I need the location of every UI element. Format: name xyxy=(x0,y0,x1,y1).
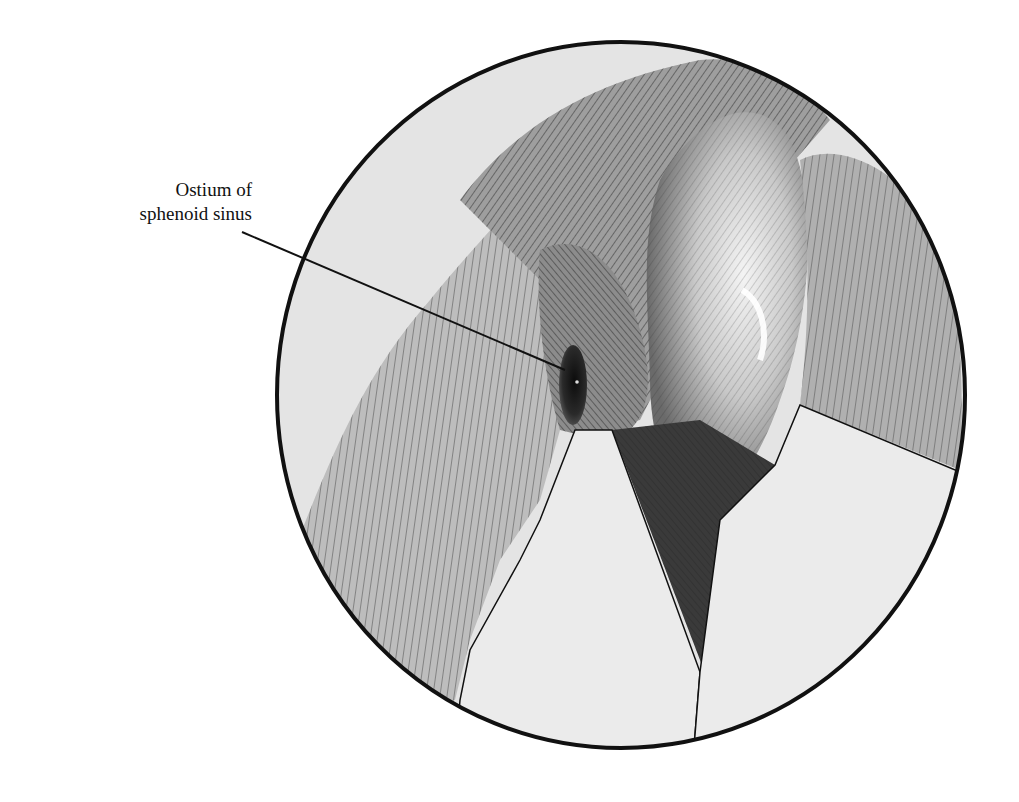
ostium-highlight xyxy=(575,380,579,384)
sphenoid-ostium xyxy=(559,345,587,425)
endoscopic-view xyxy=(0,0,1019,802)
